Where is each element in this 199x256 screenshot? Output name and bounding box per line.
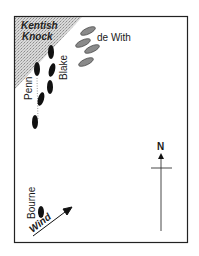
bourne-label: Bourne [26, 187, 37, 219]
ship-icon [77, 56, 94, 68]
ship-icon [47, 80, 53, 94]
ship-icon [36, 91, 45, 106]
shoal-label-line1: Kentish [21, 20, 58, 31]
ship-icon [34, 62, 40, 76]
ship-icon [48, 45, 54, 59]
north-label: N [157, 141, 164, 152]
de-with-label: de With [97, 32, 131, 43]
ship-icon [47, 62, 56, 77]
north-arrow-icon [151, 153, 172, 231]
blake-label: Blake [58, 55, 69, 80]
ship-icon [79, 25, 96, 37]
penn-label: Penn [23, 77, 34, 100]
shoal-label-line2: Knock [22, 31, 53, 42]
ship-icon [32, 115, 38, 129]
penn-track-line [37, 78, 38, 120]
